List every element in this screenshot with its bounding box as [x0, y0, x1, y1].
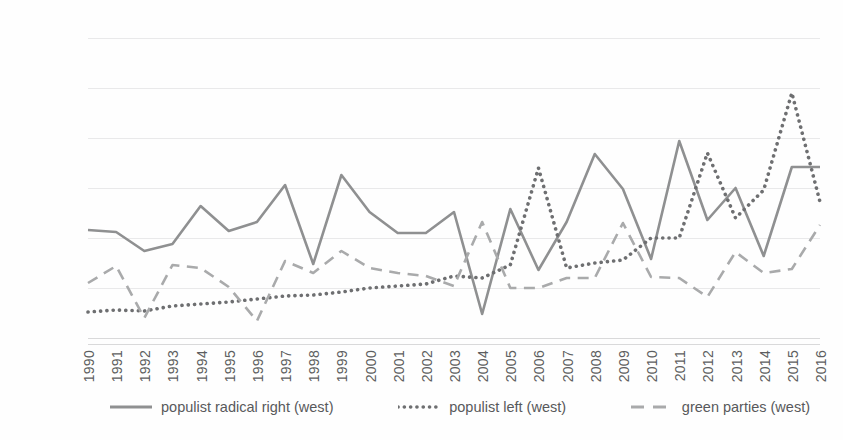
legend-swatch-dotted-icon — [398, 401, 440, 413]
legend-swatch-solid-icon — [110, 401, 152, 413]
chart-legend: populist radical right (west)populist le… — [110, 400, 810, 415]
series-line-1 — [88, 93, 820, 312]
legend-item[interactable]: populist radical right (west) — [110, 400, 333, 415]
chart-series-layer — [0, 0, 843, 440]
legend-item[interactable]: populist left (west) — [398, 400, 566, 415]
series-line-2 — [88, 222, 820, 321]
legend-label: populist left (west) — [449, 400, 566, 415]
line-chart: 0.005.0010.0015.0020.0025.0030.00 199019… — [0, 0, 843, 440]
legend-label: green parties (west) — [682, 400, 810, 415]
legend-item[interactable]: green parties (west) — [631, 400, 810, 415]
legend-label: populist radical right (west) — [161, 400, 333, 415]
legend-swatch-dashed-icon — [631, 401, 673, 413]
series-line-0 — [88, 141, 820, 314]
